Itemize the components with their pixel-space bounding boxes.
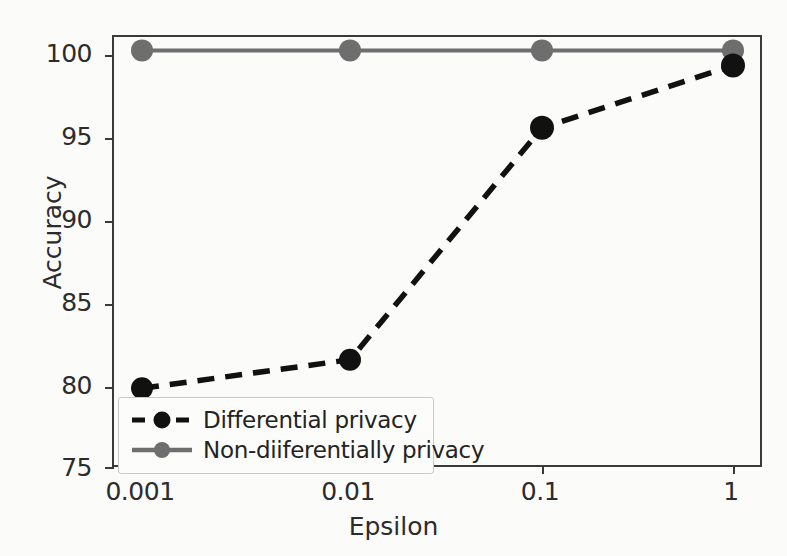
y-tick-label-95: 95 — [20, 122, 92, 151]
data-point-differential-01 — [530, 116, 554, 140]
data-point-differential-1 — [721, 54, 745, 78]
data-point-differential-001 — [339, 349, 361, 371]
legend-swatch-differential-icon — [131, 409, 193, 431]
chart-legend: Differential privacy Non-diiferentially … — [118, 397, 434, 474]
data-point-non-differential-001 — [339, 39, 361, 61]
legend-label-non-differential: Non-diiferentially privacy — [203, 437, 484, 463]
series-line-differential — [142, 66, 733, 389]
x-tick-label-01: 0.1 — [521, 477, 559, 506]
y-tick-label-100: 100 — [20, 39, 92, 68]
chart-figure: Accuracy 100 95 90 85 80 75 0.001 0.01 0… — [0, 0, 787, 556]
y-tick-label-75: 75 — [20, 453, 92, 482]
plot-area: Differential privacy Non-diiferentially … — [112, 35, 762, 467]
x-axis-label: Epsilon — [0, 512, 787, 541]
y-tick-mark-75 — [105, 467, 114, 469]
y-tick-mark-80 — [105, 387, 114, 389]
y-tick-mark-95 — [105, 138, 114, 140]
data-point-differential-0001 — [131, 377, 153, 399]
y-tick-label-85: 85 — [20, 288, 92, 317]
y-tick-label-80: 80 — [20, 371, 92, 400]
data-point-non-differential-0001 — [131, 39, 153, 61]
y-tick-mark-85 — [105, 304, 114, 306]
legend-entry-differential: Differential privacy — [131, 405, 421, 435]
legend-swatch-non-differential-icon — [131, 439, 193, 461]
legend-entry-non-differential: Non-diiferentially privacy — [131, 435, 421, 465]
legend-label-differential: Differential privacy — [203, 407, 417, 433]
y-tick-mark-100 — [105, 55, 114, 57]
x-tick-label-001: 0.01 — [321, 477, 375, 506]
x-tick-label-0001: 0.001 — [105, 477, 174, 506]
y-tick-mark-90 — [105, 221, 114, 223]
data-point-non-differential-01 — [531, 39, 553, 61]
y-tick-label-90: 90 — [20, 205, 92, 234]
x-tick-label-1: 1 — [723, 477, 738, 506]
